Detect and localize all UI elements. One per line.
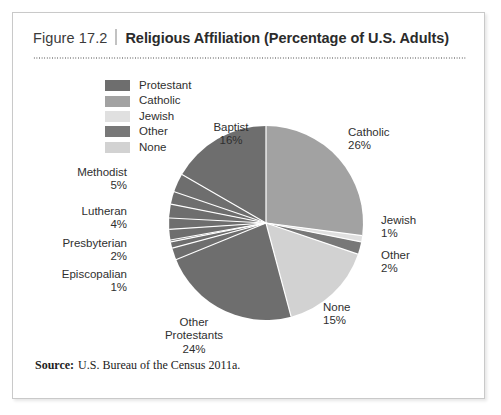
callout-other-protestants-pct: 24% — [146, 343, 242, 356]
pie-slice-jewish — [266, 223, 362, 242]
leader-line-episcopalian — [131, 223, 266, 278]
figure-number: Figure 17.2 — [33, 30, 107, 46]
leader-line-lutheran — [131, 216, 266, 223]
pie-chart-area: Baptist 16% Methodist 5% Lutheran 4% Pre… — [13, 13, 486, 400]
callout-lutheran-name: Lutheran — [82, 205, 127, 217]
source-text: U.S. Bureau of the Census 2011a. — [78, 358, 240, 372]
pie-chart-svg — [13, 13, 486, 400]
callout-presbyterian-pct: 2% — [31, 250, 127, 263]
callout-catholic: Catholic 26% — [348, 126, 418, 153]
callout-other-name: Other — [381, 249, 410, 261]
callout-episcopalian-pct: 1% — [31, 281, 127, 294]
callout-catholic-name: Catholic — [348, 126, 390, 138]
leader-line-presbyterian — [131, 223, 266, 247]
callout-jewish-pct: 1% — [381, 227, 441, 240]
callout-other-pct: 2% — [381, 262, 441, 275]
callout-none: None 15% — [323, 301, 383, 328]
callout-baptist-name: Baptist — [213, 121, 248, 133]
callout-jewish-name: Jewish — [381, 214, 416, 226]
pie-slice-divider — [171, 204, 266, 223]
legend-swatch-jewish — [105, 111, 130, 122]
legend-item-none: None — [105, 140, 191, 155]
source-label: Source: — [35, 358, 74, 372]
callout-other-protestants: Other Protestants 24% — [146, 316, 242, 356]
pie-slice-divider — [266, 223, 361, 242]
callout-lutheran: Lutheran 4% — [49, 205, 127, 232]
callout-other: Other 2% — [381, 249, 441, 276]
pie-slice-baptist — [182, 126, 266, 223]
callout-lutheran-pct: 4% — [49, 218, 127, 231]
callout-jewish: Jewish 1% — [381, 214, 441, 241]
figure-title: Religious Affiliation (Percentage of U.S… — [125, 30, 449, 46]
legend-swatch-other — [105, 126, 130, 137]
callout-episcopalian-name: Episcopalian — [62, 268, 127, 280]
callout-presbyterian: Presbyterian 2% — [31, 237, 127, 264]
legend-swatch-protestant — [105, 80, 130, 91]
legend-label-catholic: Catholic — [139, 95, 181, 107]
title-divider — [115, 29, 117, 45]
callout-presbyterian-name: Presbyterian — [62, 237, 127, 249]
pie-slice-divider — [172, 223, 266, 248]
pie-slice-divider — [266, 223, 291, 317]
figure-header: Figure 17.2 Religious Affiliation (Perce… — [33, 27, 468, 53]
pie-slice-none — [266, 223, 358, 317]
callout-none-name: None — [323, 301, 351, 313]
callout-none-pct: 15% — [323, 314, 383, 327]
callout-catholic-pct: 26% — [348, 139, 418, 152]
pie-slice-lutheran — [169, 204, 266, 229]
callout-methodist-name: Methodist — [77, 166, 127, 178]
figure-container: Figure 17.2 Religious Affiliation (Perce… — [12, 12, 485, 399]
pie-slice-other-protestants — [172, 223, 291, 320]
pie-slice-divider — [171, 223, 266, 242]
callout-baptist: Baptist 16% — [200, 121, 262, 148]
callout-other-protestants-name: Other — [180, 316, 209, 328]
leader-line-methodist — [131, 177, 266, 223]
pie-slice-presbyterian — [169, 223, 266, 242]
legend-item-jewish: Jewish — [105, 109, 191, 124]
legend-label-jewish: Jewish — [139, 111, 174, 123]
legend-item-other: Other — [105, 124, 191, 139]
pie-slice-divider — [266, 223, 358, 254]
pie-slice-catholic — [266, 126, 363, 236]
legend-item-protestant: Protestant — [105, 78, 191, 93]
pie-slice-divider — [169, 223, 266, 229]
callout-episcopalian: Episcopalian 1% — [31, 268, 127, 295]
legend-swatch-none — [105, 142, 130, 153]
callout-methodist: Methodist 5% — [49, 166, 127, 193]
legend-swatch-catholic — [105, 96, 130, 107]
pie-slice-divider — [182, 175, 266, 224]
pie-slice-methodist — [171, 175, 266, 224]
pie-slice-episcopalian — [171, 223, 266, 248]
pie-slice-other — [266, 223, 361, 254]
callout-other-protestants-name2: Protestants — [146, 329, 242, 342]
legend-label-protestant: Protestant — [139, 80, 191, 92]
header-dotted-rule — [33, 57, 467, 59]
legend-label-none: None — [139, 142, 167, 154]
callout-methodist-pct: 5% — [49, 179, 127, 192]
pie-slices — [169, 126, 363, 320]
legend-item-catholic: Catholic — [105, 93, 191, 108]
chart-legend: Protestant Catholic Jewish Other None — [105, 78, 191, 155]
source-line: Source:U.S. Bureau of the Census 2011a. — [35, 358, 240, 373]
callout-baptist-pct: 16% — [200, 134, 262, 147]
legend-label-other: Other — [139, 126, 168, 138]
pie-slice-divider — [266, 223, 362, 236]
